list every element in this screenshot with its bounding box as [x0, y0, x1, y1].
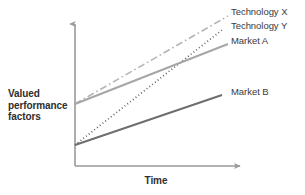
series-line-technology-x — [75, 16, 228, 104]
series-line-market-a — [75, 44, 228, 104]
series-label-market-a: Market A — [231, 35, 268, 46]
series-label-technology-y: Technology Y — [231, 20, 287, 31]
series-label-market-b: Market B — [231, 86, 269, 97]
y-axis-title: Valued performance factors — [8, 88, 72, 123]
series-line-market-b — [75, 95, 222, 145]
chart-figure: Valued performance factors Time Technolo… — [0, 0, 305, 195]
series-line-technology-y — [75, 30, 222, 145]
x-axis-title: Time — [120, 175, 192, 187]
series-label-technology-x: Technology X — [231, 6, 287, 17]
